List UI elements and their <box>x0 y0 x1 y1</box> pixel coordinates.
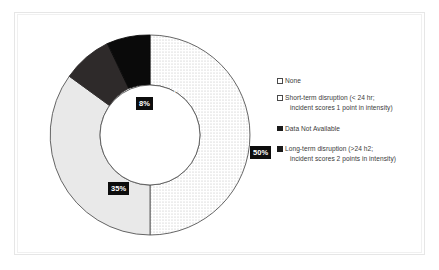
donut-chart: 50% 35% 8% 7% <box>42 27 258 243</box>
legend-marker-hollow-square-icon <box>277 78 283 84</box>
legend-label-none-line1: None <box>285 77 301 84</box>
chart-legend: None Short-term disruption (< 24 hr; inc… <box>277 76 429 174</box>
legend-item-none[interactable]: None <box>277 76 429 86</box>
legend-marker-filled-square-icon-2 <box>277 146 283 152</box>
legend-item-short-term[interactable]: Short-term disruption (< 24 hr; incident… <box>277 93 429 113</box>
data-label-none: 50% <box>250 146 271 159</box>
legend-label-none: None <box>285 76 301 86</box>
legend-label-short-term: Short-term disruption (< 24 hr; incident… <box>285 93 393 113</box>
data-label-short-term: 35% <box>108 182 129 195</box>
legend-label-data-not-available-line1: Data Not Available <box>285 125 340 132</box>
data-label-long-term: 7% <box>170 84 187 97</box>
legend-label-long-term-line2: incident scores 2 points in intensity) <box>285 154 396 164</box>
data-label-data-not-available: 8% <box>136 97 153 110</box>
chart-figure: 50% 35% 8% 7% None Short-term disruption… <box>0 0 439 270</box>
legend-label-data-not-available: Data Not Available <box>285 124 340 134</box>
legend-marker-filled-square-icon <box>277 126 283 132</box>
legend-label-long-term-line1: Long-term disruption (>24 h2; <box>285 145 373 152</box>
legend-marker-dotted-square-icon <box>277 95 283 101</box>
legend-label-long-term: Long-term disruption (>24 h2; incident s… <box>285 144 396 164</box>
legend-label-short-term-line1: Short-term disruption (< 24 hr; <box>285 94 375 101</box>
legend-item-long-term[interactable]: Long-term disruption (>24 h2; incident s… <box>277 144 429 164</box>
legend-item-data-not-available[interactable]: Data Not Available <box>277 124 429 134</box>
donut-svg <box>42 27 258 243</box>
legend-label-short-term-line2: incident scores 1 point in intensity) <box>285 103 393 113</box>
